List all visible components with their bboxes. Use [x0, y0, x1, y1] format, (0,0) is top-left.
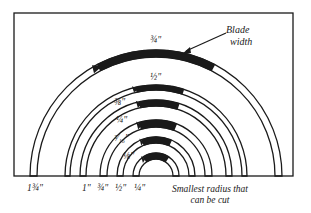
blade-width-label-line2: width — [226, 36, 252, 48]
blade-label-1-2: ½" — [150, 73, 161, 83]
blade-width-label-line1: Blade — [226, 24, 252, 36]
blade-section-1-2- — [136, 87, 183, 91]
blade-width-pointer — [186, 33, 226, 51]
channel-1-4- — [100, 120, 212, 176]
smallest-radius-line2: can be cut — [167, 195, 253, 206]
blade-radius-diagram — [0, 0, 311, 213]
blade-section-3-8- — [140, 103, 179, 107]
blade-width-label: Blade width — [226, 24, 252, 47]
radius-label-1-2: ½" — [115, 184, 126, 194]
radius-label-1-3-4: 1¾" — [27, 184, 43, 194]
radius-label-1: 1" — [82, 184, 91, 194]
blade-section-3-16- — [143, 140, 171, 143]
blade-section-3-4- — [98, 53, 213, 67]
smallest-radius-note: Smallest radius that can be cut — [167, 184, 253, 206]
blade-label-3-4: ¾" — [150, 36, 161, 46]
channel-1-2- — [65, 85, 247, 176]
blade-label-1-8: ⅛" — [123, 152, 134, 162]
radius-label-1-4: ¼" — [134, 184, 145, 194]
blade-label-3-16: ³⁄₁₆" — [114, 134, 129, 144]
blade-width-arrowhead-icon — [181, 47, 191, 55]
blade-section-1-4- — [140, 124, 176, 128]
blade-label-1-4: ¼" — [116, 116, 127, 126]
radius-label-3-4: ¾" — [97, 184, 108, 194]
blade-section-1-8- — [145, 156, 168, 160]
smallest-radius-line1: Smallest radius that — [167, 184, 253, 195]
blade-label-3-8: ⅜" — [114, 98, 125, 108]
